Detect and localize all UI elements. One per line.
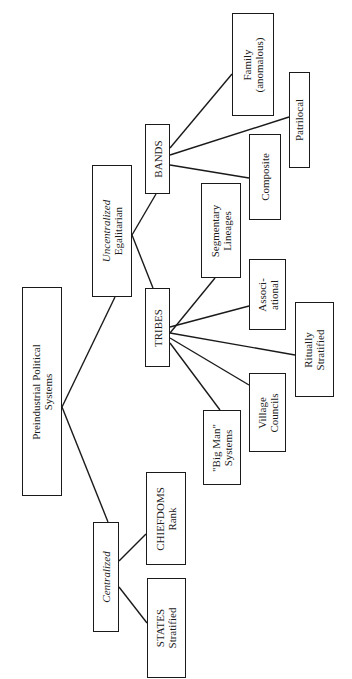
segmentary-label-2: Lineages <box>221 204 233 257</box>
node-family: Family (anomalous) <box>232 13 274 116</box>
uncentralized-label-1: Uncentralized <box>100 200 112 262</box>
associational-label-1: Associ- <box>255 278 267 312</box>
ritually-label-2: Stratified <box>315 329 327 370</box>
uncentralized-label-2: Egalitarian <box>112 200 124 262</box>
centralized-label: Centralized <box>100 551 112 602</box>
node-ritually-stratified: Ritually Stratified <box>295 302 334 397</box>
family-label-2: (anomalous) <box>253 37 265 92</box>
edge-uncentralized-tribes <box>132 235 153 288</box>
bigman-label-1: "Big Man" <box>210 424 222 472</box>
edge-centralized-states <box>119 587 147 623</box>
node-centralized: Centralized <box>93 522 119 632</box>
node-chiefdoms: CHIEFDOMS Rank <box>146 472 186 565</box>
root-label-2: Systems <box>42 344 54 440</box>
bigman-label-2: Systems <box>222 424 234 472</box>
edge-bands-family <box>170 74 232 148</box>
node-root: Preindustrial Political Systems <box>22 287 62 496</box>
edge-root-uncentralized <box>62 297 115 407</box>
node-big-man: "Big Man" Systems <box>203 410 241 485</box>
edge-tribes-associational <box>170 306 249 327</box>
node-village-councils: Village Councils <box>249 373 286 452</box>
edge-centralized-chiefdoms <box>119 534 146 561</box>
bands-label: BANDS <box>152 140 164 177</box>
tribes-label: TRIBES <box>152 309 164 347</box>
composite-label: Composite <box>259 153 271 201</box>
family-label-1: Family <box>241 37 253 92</box>
node-composite: Composite <box>249 134 281 220</box>
chiefdoms-label-2: Rank <box>166 487 178 551</box>
chiefdoms-label-1: CHIEFDOMS <box>154 487 166 551</box>
associational-label-2: ational <box>267 278 279 312</box>
states-label-1: STATES <box>155 608 167 649</box>
edge-bands-composite <box>170 165 249 178</box>
edge-tribes-ritually <box>170 333 295 355</box>
states-label-2: Stratified <box>167 608 179 649</box>
node-tribes: TRIBES <box>145 288 170 367</box>
village-label-1: Village <box>256 393 268 432</box>
village-label-2: Councils <box>268 393 280 432</box>
segmentary-label-1: Segmentary <box>209 204 221 257</box>
edge-root-centralized <box>62 407 108 522</box>
node-associational: Associ- ational <box>249 259 286 330</box>
node-patrilocal: Patrilocal <box>289 72 310 168</box>
node-states: STATES Stratified <box>147 578 186 678</box>
node-segmentary: Segmentary Lineages <box>201 183 241 278</box>
patrilocal-label: Patrilocal <box>294 99 306 141</box>
node-uncentralized: Uncentralized Egalitarian <box>92 165 132 297</box>
edge-uncentralized-bands <box>132 194 156 235</box>
ritually-label-1: Ritually <box>303 329 315 370</box>
root-label-1: Preindustrial Political <box>30 344 42 440</box>
node-bands: BANDS <box>145 124 170 194</box>
